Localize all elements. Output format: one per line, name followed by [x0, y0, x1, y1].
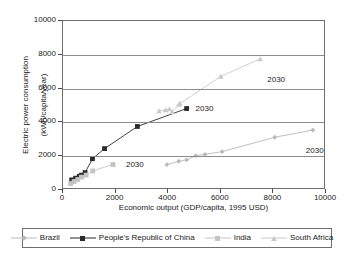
- data-point-marker: [102, 146, 107, 151]
- legend-label: People's Republic of China: [99, 234, 195, 242]
- x-axis-tick-label: 8000: [252, 194, 292, 202]
- y-axis-tick-label: 6000: [14, 84, 56, 92]
- data-annotation-2030: 2030: [267, 76, 285, 84]
- legend-item: Brazil: [11, 233, 70, 243]
- x-axis-tick-label: 0: [42, 194, 82, 202]
- y-axis-label-line1: Electric power consumption: [21, 56, 30, 154]
- x-axis-tick-label: 2000: [95, 194, 135, 202]
- data-point-marker: [184, 158, 189, 163]
- x-axis-tick-label: 10000: [305, 194, 345, 202]
- data-point-marker: [310, 128, 315, 133]
- data-point-marker: [135, 124, 140, 129]
- x-axis-tick-mark: [220, 189, 221, 193]
- data-point-marker: [184, 106, 189, 111]
- y-axis-tick-label: 0: [14, 185, 56, 193]
- y-axis-tick-label: 4000: [14, 117, 56, 125]
- y-axis-tick-mark: [58, 121, 62, 122]
- legend-label: South Africa: [290, 234, 333, 242]
- legend-marker-square-icon: [205, 233, 231, 243]
- plot-area: [62, 20, 325, 189]
- y-axis-tick-mark: [58, 54, 62, 55]
- gridline-y: [63, 156, 324, 157]
- legend-item: People's Republic of China: [70, 233, 205, 243]
- x-axis-tick-label: 4000: [147, 194, 187, 202]
- y-axis-tick-label: 8000: [14, 50, 56, 58]
- x-axis-tick-label: 6000: [200, 194, 240, 202]
- series-line: [167, 130, 313, 165]
- y-axis-tick-mark: [58, 155, 62, 156]
- legend-label: Brazil: [40, 234, 60, 242]
- data-annotation-2030: 2030: [306, 147, 324, 155]
- legend-marker-triangle-icon: [261, 233, 287, 243]
- legend-marker-diamond-icon: [11, 233, 37, 243]
- legend-item: India: [205, 233, 261, 243]
- gridline-y: [63, 122, 324, 123]
- legend-label: India: [234, 234, 251, 242]
- y-axis-tick-label: 10000: [14, 16, 56, 24]
- gridline-y: [63, 89, 324, 90]
- x-axis-tick-mark: [62, 189, 63, 193]
- chart-legend: BrazilPeople's Republic of ChinaIndiaSou…: [22, 228, 332, 248]
- x-axis-tick-mark: [325, 189, 326, 193]
- data-annotation-2030: 2030: [126, 161, 144, 169]
- data-point-marker: [258, 56, 263, 61]
- chart-figure: Electric power consumption (kWh/capita/y…: [0, 0, 355, 256]
- data-point-marker: [272, 135, 277, 140]
- legend-marker-square-icon: [70, 233, 96, 243]
- gridline-y: [63, 55, 324, 56]
- data-layer: [63, 21, 326, 190]
- y-axis-tick-label: 2000: [14, 151, 56, 159]
- data-point-marker: [164, 162, 169, 167]
- data-point-marker: [90, 169, 95, 174]
- x-axis-label: Economic output (GDP/capita, 1995 USD): [62, 203, 325, 213]
- x-axis-tick-mark: [115, 189, 116, 193]
- legend-item: South Africa: [261, 233, 343, 243]
- x-axis-tick-mark: [167, 189, 168, 193]
- data-point-marker: [79, 175, 84, 180]
- data-point-marker: [176, 159, 181, 164]
- x-axis-tick-mark: [272, 189, 273, 193]
- data-point-marker: [84, 173, 89, 178]
- data-annotation-2030: 2030: [196, 105, 214, 113]
- data-point-marker: [220, 149, 225, 154]
- y-axis-tick-mark: [58, 20, 62, 21]
- y-axis-tick-mark: [58, 88, 62, 89]
- y-axis-label: Electric power consumption (kWh/capita/y…: [12, 20, 26, 190]
- data-point-marker: [111, 162, 116, 167]
- data-point-marker: [218, 74, 223, 79]
